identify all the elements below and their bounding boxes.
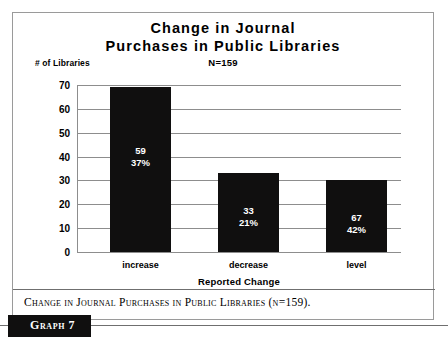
y-tick-label: 40 [59,151,70,162]
chart-title-line-1: Change in Journal [13,19,433,37]
bar-decrease: 3321% [218,173,279,252]
bar-value-count: 67 [351,212,362,223]
bar-value-count: 59 [135,145,146,156]
bar-value-label: 3321% [218,205,279,229]
chart-title: Change in Journal Purchases in Public Li… [13,19,433,55]
gridline [77,85,401,86]
caption-divider [13,289,435,290]
bar-value-count: 33 [243,205,254,216]
y-tick-label: 10 [59,223,70,234]
plot-inner: 0102030405060705937%increase3321%decreas… [77,85,401,253]
x-axis-line [77,252,401,253]
y-axis-title: # of Libraries [35,58,90,68]
y-tick-label: 0 [64,247,70,258]
x-tick-label-level: level [346,260,366,270]
y-tick-label: 70 [59,80,70,91]
figure-frame: Change in Journal Purchases in Public Li… [12,12,434,320]
figure-caption: Change in Journal Purchases in Public Li… [24,296,311,308]
bar-increase: 5937% [110,87,171,252]
bar-level: 6742% [326,180,387,252]
y-tick-label: 50 [59,127,70,138]
y-tick-label: 20 [59,199,70,210]
x-tick-label-decrease: decrease [229,260,268,270]
bar-value-label: 6742% [326,212,387,236]
bar-value-label: 5937% [110,145,171,169]
plot-area: 0102030405060705937%increase3321%decreas… [77,85,401,253]
bar-value-percent: 37% [110,157,171,169]
y-tick-label: 60 [59,103,70,114]
x-tick-label-increase: increase [122,260,159,270]
bar-value-percent: 21% [218,217,279,229]
y-tick-label: 30 [59,175,70,186]
x-axis-title: Reported Change [77,276,401,287]
chart-title-line-2: Purchases in Public Libraries [13,37,433,55]
graph-number-badge: Graph 7 [8,315,91,337]
bar-value-percent: 42% [326,224,387,236]
